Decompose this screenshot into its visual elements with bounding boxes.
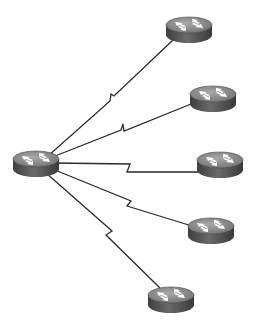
router-icon	[190, 86, 236, 112]
serial-link-router-4	[50, 168, 192, 226]
spoke-router-5[interactable]	[148, 287, 194, 313]
spoke-router-4[interactable]	[188, 218, 234, 244]
serial-link-router-2	[50, 102, 196, 158]
spoke-router-2[interactable]	[190, 86, 236, 112]
wan-links	[46, 40, 199, 288]
router-icon	[13, 151, 59, 177]
router-icon	[188, 218, 234, 244]
router-icon	[197, 152, 243, 178]
router-icon	[166, 17, 212, 43]
serial-link-router-3	[52, 163, 199, 172]
hub-router[interactable]	[13, 151, 59, 177]
router-icon	[148, 287, 194, 313]
spoke-router-3[interactable]	[197, 152, 243, 178]
spoke-router-1[interactable]	[166, 17, 212, 43]
serial-link-router-1	[48, 40, 173, 156]
network-diagram	[0, 0, 255, 329]
